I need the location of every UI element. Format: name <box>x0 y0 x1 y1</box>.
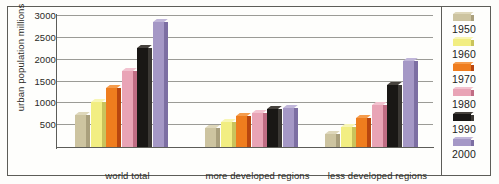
legend-swatch <box>453 39 471 46</box>
legend-label: 1990 <box>452 123 476 135</box>
legend-swatch-side <box>471 15 474 21</box>
bar-front <box>122 71 133 147</box>
bar-side <box>247 116 251 147</box>
y-tick-label: 2500 <box>10 32 56 43</box>
y-axis-ticks: urban population millions 50010001500200… <box>4 0 56 184</box>
bar-1950-less-developed-regions[interactable] <box>325 134 336 147</box>
bar-1960-more-developed-regions[interactable] <box>221 122 232 147</box>
bar-2000-world-total[interactable] <box>153 22 164 147</box>
legend-swatch-top <box>453 112 474 114</box>
bar-side <box>117 88 121 147</box>
legend-item-1970[interactable]: 1970 <box>452 64 492 89</box>
bar-1970-more-developed-regions[interactable] <box>236 116 247 147</box>
legend-swatch-side <box>471 40 474 46</box>
bar-front <box>221 122 232 147</box>
bar-front <box>205 128 216 147</box>
bar-front <box>267 109 278 147</box>
bar-2000-more-developed-regions[interactable] <box>283 108 294 147</box>
plot-area: world totalmore developed regionsless de… <box>57 16 433 147</box>
legend-item-1980[interactable]: 1980 <box>452 89 492 114</box>
bar-front <box>91 102 102 147</box>
bar-side <box>216 128 220 147</box>
bar-1960-world-total[interactable] <box>91 102 102 147</box>
bar-front <box>356 118 367 147</box>
legend-item-2000[interactable]: 2000 <box>452 139 492 164</box>
legend-label: 1970 <box>452 73 476 85</box>
chart-screenshot: urban population millions 50010001500200… <box>0 0 499 184</box>
legend-swatch-top <box>453 87 474 89</box>
bar-side <box>352 127 356 147</box>
legend-swatch-front <box>453 114 471 121</box>
bar-top <box>252 110 267 113</box>
legend-item-1990[interactable]: 1990 <box>452 114 492 139</box>
bar-side <box>164 22 168 147</box>
bar-front <box>283 108 294 147</box>
legend-divider <box>441 7 442 175</box>
bar-side <box>102 102 106 147</box>
legend-swatch-front <box>453 64 471 71</box>
bar-side <box>336 134 340 147</box>
bar-group <box>205 16 310 147</box>
legend-swatch-side <box>471 90 474 96</box>
bar-1990-less-developed-regions[interactable] <box>387 85 398 147</box>
bar-1950-more-developed-regions[interactable] <box>205 128 216 147</box>
bar-front <box>153 22 164 147</box>
bar-1950-world-total[interactable] <box>75 115 86 147</box>
legend-swatch-top <box>453 137 474 139</box>
bar-front <box>236 116 247 147</box>
bar-side <box>148 48 152 147</box>
y-tick-label: 3000 <box>10 10 56 21</box>
y-tick-label: 1500 <box>10 76 56 87</box>
legend-item-1950[interactable]: 1950 <box>452 14 492 39</box>
legend-swatch-front <box>453 14 471 21</box>
x-category-label: less developed regions <box>325 170 430 181</box>
x-category-label: world total <box>75 170 180 181</box>
bar-group <box>75 16 180 147</box>
bar-side <box>294 108 298 147</box>
chart-legend: 195019601970198019902000 <box>452 14 492 164</box>
bar-1990-more-developed-regions[interactable] <box>267 109 278 147</box>
bar-side <box>232 122 236 147</box>
y-tick-label: 500 <box>10 119 56 130</box>
bar-front <box>341 127 352 147</box>
x-axis-line <box>56 147 434 148</box>
bar-front <box>387 85 398 147</box>
bar-side <box>414 61 418 147</box>
legend-swatch-front <box>453 39 471 46</box>
bar-front <box>106 88 117 147</box>
legend-swatch <box>453 114 471 121</box>
bar-1980-less-developed-regions[interactable] <box>372 105 383 147</box>
bar-2000-less-developed-regions[interactable] <box>403 61 414 147</box>
legend-swatch-top <box>453 12 474 14</box>
legend-swatch-top <box>453 62 474 64</box>
legend-swatch <box>453 14 471 21</box>
bar-1980-world-total[interactable] <box>122 71 133 147</box>
bar-side <box>86 115 90 147</box>
legend-item-1960[interactable]: 1960 <box>452 39 492 64</box>
legend-swatch-side <box>471 115 474 121</box>
bar-1980-more-developed-regions[interactable] <box>252 113 263 147</box>
bar-1960-less-developed-regions[interactable] <box>341 127 352 147</box>
bar-1970-less-developed-regions[interactable] <box>356 118 367 147</box>
y-tick-label: 1000 <box>10 97 56 108</box>
bar-front <box>252 113 263 147</box>
legend-label: 1960 <box>452 48 476 60</box>
bar-front <box>137 48 148 147</box>
bar-front <box>75 115 86 147</box>
x-category-label: more developed regions <box>205 170 310 181</box>
bar-front <box>403 61 414 147</box>
bar-side <box>278 109 282 147</box>
legend-swatch-front <box>453 89 471 96</box>
legend-swatch-top <box>453 37 474 39</box>
legend-label: 1980 <box>452 98 476 110</box>
legend-swatch-side <box>471 140 474 146</box>
bar-side <box>367 118 371 147</box>
bar-group <box>325 16 430 147</box>
legend-swatch <box>453 64 471 71</box>
bar-side <box>133 71 137 147</box>
legend-swatch <box>453 139 471 146</box>
bar-1970-world-total[interactable] <box>106 88 117 147</box>
bar-1990-world-total[interactable] <box>137 48 148 147</box>
legend-label: 1950 <box>452 23 476 35</box>
legend-swatch-side <box>471 65 474 71</box>
